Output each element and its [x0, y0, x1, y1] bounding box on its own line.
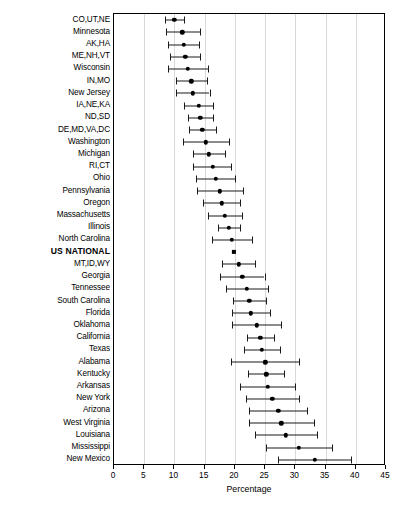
- data-point-marker: [232, 250, 236, 254]
- error-bar-cap-low: [183, 139, 184, 146]
- x-tick-40: [355, 465, 356, 469]
- error-bar-cap-high: [299, 395, 300, 402]
- data-point-marker: [180, 30, 184, 34]
- error-bar-cap-high: [243, 188, 244, 195]
- error-bar-cap-high: [284, 371, 285, 378]
- data-point-marker: [240, 274, 244, 278]
- plot-area: [113, 13, 385, 465]
- category-label: New Jersey: [0, 87, 110, 98]
- data-point-marker: [219, 201, 223, 205]
- category-label: Ohio: [0, 172, 110, 183]
- error-bar-cap-high: [200, 53, 201, 60]
- data-point-marker: [260, 348, 264, 352]
- error-bar-cap-high: [240, 200, 241, 207]
- error-bar-cap-low: [246, 395, 247, 402]
- data-row: [114, 271, 384, 283]
- error-bar-cap-low: [197, 188, 198, 195]
- data-row: [114, 429, 384, 441]
- x-tick-label: 0: [98, 470, 128, 480]
- error-bar-cap-low: [220, 273, 221, 280]
- error-bar-cap-high: [184, 17, 185, 24]
- error-bar-cap-low: [222, 261, 223, 268]
- error-bar-cap-low: [278, 456, 279, 463]
- error-bar-cap-high: [295, 383, 296, 390]
- data-point-marker: [204, 140, 208, 144]
- data-point-marker: [213, 177, 217, 181]
- error-bar-cap-high: [207, 78, 208, 85]
- error-bar-cap-high: [210, 90, 211, 97]
- error-bar-cap-high: [270, 310, 271, 317]
- error-bar-cap-low: [193, 163, 194, 170]
- x-tick-35: [325, 465, 326, 469]
- category-label: US NATIONAL: [0, 246, 110, 257]
- data-row: [114, 405, 384, 417]
- x-tick-label: 40: [340, 470, 370, 480]
- category-label: Tennessee: [0, 282, 110, 293]
- data-row: [114, 258, 384, 270]
- error-bar-cap-high: [268, 285, 269, 292]
- error-bar-cap-high: [299, 359, 300, 366]
- error-bar-cap-low: [244, 346, 245, 353]
- error-bar-cap-high: [199, 41, 200, 48]
- data-point-marker: [258, 336, 262, 340]
- error-bar-cap-high: [252, 236, 253, 243]
- x-tick-25: [264, 465, 265, 469]
- error-bar-cap-low: [248, 371, 249, 378]
- data-point-marker: [222, 213, 226, 217]
- error-bar-cap-high: [351, 456, 352, 463]
- data-row: [114, 234, 384, 246]
- category-label: AK,HA: [0, 38, 110, 49]
- error-bar-cap-low: [208, 212, 209, 219]
- error-bar-cap-low: [232, 310, 233, 317]
- data-point-marker: [181, 42, 185, 46]
- x-tick-10: [173, 465, 174, 469]
- data-point-marker: [263, 360, 267, 364]
- data-point-marker: [218, 189, 222, 193]
- error-bar-cap-low: [249, 420, 250, 427]
- data-row: [114, 51, 384, 63]
- data-point-marker: [297, 445, 301, 449]
- error-bar-cap-high: [242, 212, 243, 219]
- data-point-marker: [247, 299, 251, 303]
- error-bar-cap-low: [196, 175, 197, 182]
- data-point-marker: [186, 67, 190, 71]
- data-row: [114, 63, 384, 75]
- data-row: [114, 136, 384, 148]
- error-bar-cap-low: [170, 53, 171, 60]
- data-row: [114, 173, 384, 185]
- data-row: [114, 368, 384, 380]
- data-point-marker: [198, 116, 202, 120]
- category-label: Washington: [0, 136, 110, 147]
- error-bar-cap-high: [266, 298, 267, 305]
- data-row: [114, 87, 384, 99]
- error-bar-cap-low: [231, 359, 232, 366]
- error-bar-cap-high: [213, 102, 214, 109]
- error-bar-cap-high: [200, 29, 201, 36]
- category-label: MT,ID,WY: [0, 258, 110, 269]
- data-row: [114, 295, 384, 307]
- error-bar-cap-low: [166, 29, 167, 36]
- data-point-marker: [270, 397, 274, 401]
- error-bar-cap-high: [240, 224, 241, 231]
- category-label: Alabama: [0, 356, 110, 367]
- data-row: [114, 356, 384, 368]
- category-label: Louisiana: [0, 429, 110, 440]
- data-row: [114, 161, 384, 173]
- error-bar-cap-high: [225, 151, 226, 158]
- error-bar-cap-high: [208, 65, 209, 72]
- forest-plot-chart: CO,UT,NEMinnesotaAK,HAME,NH,VTWisconsinI…: [0, 0, 399, 519]
- category-label: ME,NH,VT: [0, 50, 110, 61]
- data-row: [114, 332, 384, 344]
- x-tick-label: 30: [279, 470, 309, 480]
- x-tick-0: [113, 465, 114, 469]
- category-label: North Carolina: [0, 233, 110, 244]
- error-bar-cap-low: [255, 432, 256, 439]
- error-bar-cap-high: [280, 346, 281, 353]
- x-tick-5: [143, 465, 144, 469]
- error-bar-cap-high: [231, 163, 232, 170]
- error-bar-cap-low: [232, 322, 233, 329]
- x-tick-15: [204, 465, 205, 469]
- data-point-marker: [183, 55, 187, 59]
- error-bar-cap-high: [274, 334, 275, 341]
- category-label: California: [0, 331, 110, 342]
